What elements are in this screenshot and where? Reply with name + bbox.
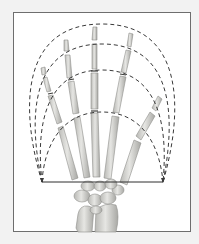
- middle-finger-bones: [91, 27, 100, 177]
- thumb-bones: [120, 96, 162, 185]
- hand-skeleton-diagram: [0, 0, 199, 244]
